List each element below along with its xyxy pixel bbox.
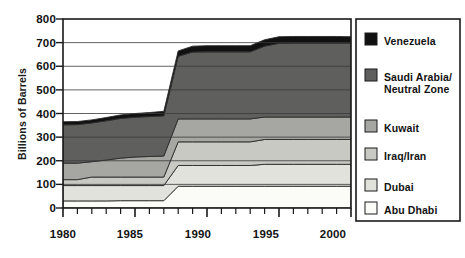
legend-swatch-saudi-arabia-neutral-zone (365, 69, 377, 81)
y-tick-label-600: 600 (22, 60, 56, 72)
legend-label-abu-dhabi: Abu Dhabi (384, 205, 437, 217)
y-tick-label-100: 100 (22, 178, 56, 190)
x-axis-ticks (63, 208, 351, 217)
y-tick-label-400: 400 (22, 108, 56, 120)
legend-label-saudi-arabia-neutral-zone: Saudi Arabia/ Neutral Zone (384, 72, 452, 95)
legend-swatch-venezuela (365, 33, 377, 45)
legend-label-dubai: Dubai (384, 182, 414, 194)
y-tick-label-300: 300 (22, 131, 56, 143)
y-tick-label-0: 0 (22, 202, 56, 214)
legend-swatch-abu-dhabi (365, 202, 377, 214)
y-tick-label-700: 700 (22, 37, 56, 49)
legend-swatch-dubai (365, 179, 377, 191)
chart-figure: Billions of Barrels 800 700 600 500 400 … (0, 0, 465, 258)
y-tick-label-500: 500 (22, 84, 56, 96)
y-axis-ticks (56, 19, 63, 208)
legend-label-venezuela: Venezuela (384, 36, 436, 48)
legend-swatch-kuwait (365, 120, 377, 132)
y-tick-label-800: 800 (22, 13, 56, 25)
x-tick-label-1990: 1990 (176, 228, 220, 240)
legend-label-kuwait: Kuwait (384, 123, 419, 135)
y-tick-label-200: 200 (22, 155, 56, 167)
x-tick-label-1985: 1985 (108, 228, 152, 240)
legend-label-iraq-iran: Iraq/Iran (384, 151, 426, 163)
x-tick-label-2000: 2000 (311, 228, 355, 240)
x-tick-label-1980: 1980 (41, 228, 85, 240)
x-tick-label-1995: 1995 (244, 228, 288, 240)
legend-swatch-iraq-iran (365, 148, 377, 160)
